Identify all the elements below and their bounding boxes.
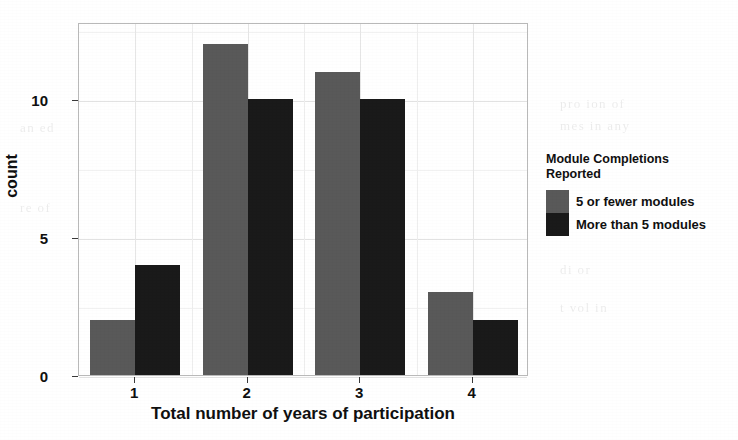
legend-item[interactable]: More than 5 modules [546, 213, 732, 236]
plot-panel [78, 23, 528, 376]
y-tick-mark [72, 376, 78, 377]
bar [473, 320, 518, 375]
x-axis-title: Total number of years of participation [151, 404, 455, 424]
y-tick-label: 10 [31, 92, 48, 109]
y-tick-label: 5 [40, 230, 48, 247]
y-axis-title: count [3, 154, 21, 198]
x-tick-mark [472, 377, 473, 383]
bar [360, 99, 405, 375]
bar [90, 320, 135, 375]
bar [315, 72, 360, 375]
gridline-major [79, 377, 527, 378]
x-tick-mark [359, 377, 360, 383]
bar [428, 292, 473, 375]
x-tick-label: 3 [355, 384, 363, 401]
x-tick-label: 1 [130, 384, 138, 401]
x-tick-label: 2 [243, 384, 251, 401]
x-tick-mark [134, 377, 135, 383]
x-tick-label: 4 [468, 384, 476, 401]
bar [248, 99, 293, 375]
bar [135, 265, 180, 375]
legend-item-label: 5 or fewer modules [576, 194, 694, 209]
legend-title: Module Completions Reported [546, 152, 732, 183]
y-tick-label: 0 [40, 368, 48, 385]
legend-swatch [546, 213, 569, 236]
x-tick-mark [247, 377, 248, 383]
bars-layer [79, 24, 527, 375]
legend-item[interactable]: 5 or fewer modules [546, 190, 732, 213]
bar-chart: count 1050 1234 Total number of years of… [0, 0, 738, 440]
bar [203, 44, 248, 375]
legend-items: 5 or fewer modulesMore than 5 modules [546, 190, 732, 236]
legend-item-label: More than 5 modules [576, 217, 706, 232]
legend-swatch [546, 190, 569, 213]
legend: Module Completions Reported 5 or fewer m… [546, 152, 732, 236]
